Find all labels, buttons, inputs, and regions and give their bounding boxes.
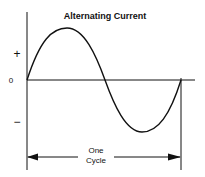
arrow-left-icon xyxy=(27,154,38,161)
ac-sine-diagram: Alternating Current + 0 − One Cycle xyxy=(0,0,205,177)
arrow-right-icon xyxy=(168,154,181,161)
minus-label: − xyxy=(13,115,20,129)
plus-label: + xyxy=(13,47,20,61)
cycle-label-line2: Cycle xyxy=(86,156,107,165)
cycle-label-line1: One xyxy=(88,146,104,155)
diagram-title: Alternating Current xyxy=(64,11,147,21)
zero-label: 0 xyxy=(9,76,14,85)
